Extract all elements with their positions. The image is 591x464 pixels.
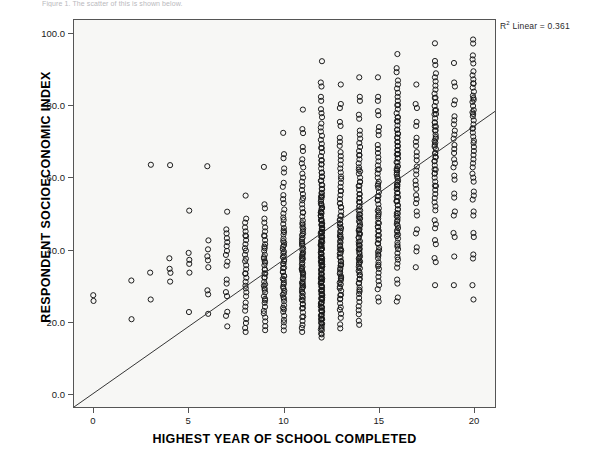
data-markers [91,37,477,340]
x-tick-mark [284,408,285,413]
y-axis-title: RESPONDENT SOCIOECONOMIC INDEX [39,47,53,347]
x-tick-mark [93,408,94,413]
y-tick-mark [68,33,73,34]
x-axis-ticks: 05101520 [73,408,496,434]
y-tick-mark [68,394,73,395]
x-tick-label: 20 [454,415,494,426]
x-tick-label: 10 [264,415,304,426]
x-axis-title: HIGHEST YEAR OF SCHOOL COMPLETED [73,432,496,446]
y-tick-mark [68,250,73,251]
x-tick-mark [379,408,380,413]
x-tick-label: 5 [168,415,208,426]
x-tick-label: 0 [73,415,113,426]
x-tick-mark [188,408,189,413]
y-tick-mark [68,177,73,178]
x-tick-label: 15 [359,415,399,426]
y-tick-mark [68,322,73,323]
r-squared-annotation: R2 Linear = 0.361 [500,20,570,31]
figure-caption: Figure 1. The scatter of this is shown b… [42,0,302,7]
y-tick-label: 0.0 [25,388,65,399]
y-tick-mark [68,105,73,106]
y-tick-label: 100.0 [25,28,65,39]
x-tick-mark [474,408,475,413]
plot-area [73,19,496,408]
scatter-plot-figure: Figure 1. The scatter of this is shown b… [0,0,591,464]
scatter-canvas [74,20,495,407]
r-squared-value: Linear = 0.361 [510,21,570,31]
